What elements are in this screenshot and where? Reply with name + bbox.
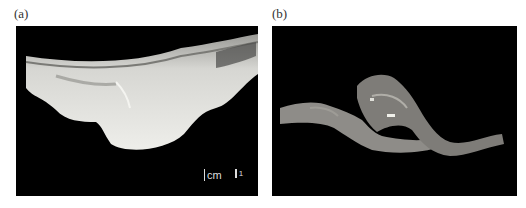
panel-label-b: (b): [272, 6, 287, 22]
specimen-image-a: cm 1: [16, 26, 258, 196]
panel-label-a: (a): [14, 6, 28, 22]
scale-unit: cm: [204, 169, 222, 181]
scale-tick: 1: [235, 169, 243, 178]
specimen-b-illustration: [272, 26, 517, 196]
specimen-image-b: [272, 26, 517, 196]
scale-bar: cm 1: [204, 169, 243, 181]
